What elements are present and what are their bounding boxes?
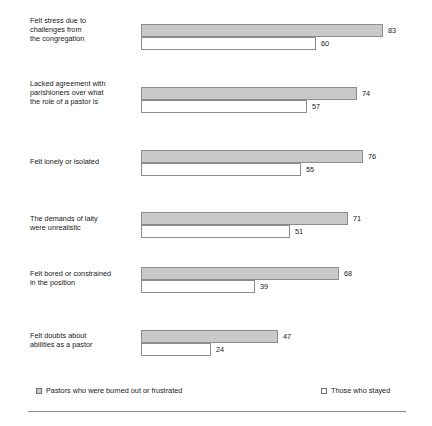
bar-stayed [141, 163, 301, 176]
legend-item-stayed[interactable]: Those who stayed [321, 386, 390, 395]
bar-stayed [141, 37, 316, 50]
legend-label-stayed: Those who stayed [331, 386, 390, 395]
bar-value-burned-out: 68 [344, 267, 352, 280]
category-label: Felt bored or constrained in the positio… [30, 269, 135, 287]
category-label: Lacked agreement with parishioners over … [30, 79, 135, 107]
bar-burned-out [141, 24, 383, 37]
bar-burned-out [141, 87, 357, 100]
bar-value-stayed: 55 [306, 163, 314, 176]
category-label: Felt lonely or isolated [30, 157, 135, 166]
bar-value-burned-out: 71 [353, 212, 361, 225]
bar-value-burned-out: 76 [368, 150, 376, 163]
bar-burned-out [141, 212, 348, 225]
bar-stayed [141, 225, 290, 238]
legend-swatch-hollow-icon [321, 388, 327, 394]
bar-value-stayed: 60 [321, 37, 329, 50]
category-label: Felt stress due to challenges from the c… [30, 16, 135, 44]
chart-legend: Pastors who were burned out or frustrate… [0, 386, 432, 402]
bar-value-stayed: 51 [295, 225, 303, 238]
bar-stayed [141, 343, 211, 356]
grouped-bar-chart: Felt stress due to challenges from the c… [0, 0, 432, 426]
bar-stayed [141, 100, 307, 113]
bar-burned-out [141, 330, 278, 343]
bar-value-burned-out: 47 [283, 330, 291, 343]
bar-value-burned-out: 74 [362, 87, 370, 100]
bar-value-stayed: 24 [216, 343, 224, 356]
bar-stayed [141, 280, 255, 293]
bar-burned-out [141, 150, 363, 163]
bar-burned-out [141, 267, 339, 280]
legend-label-burned-out: Pastors who were burned out or frustrate… [46, 386, 182, 395]
bar-value-stayed: 57 [312, 100, 320, 113]
legend-swatch-filled-icon [36, 388, 42, 394]
category-label: The demands of laity were unrealistic [30, 214, 135, 232]
bar-value-stayed: 39 [260, 280, 268, 293]
bar-value-burned-out: 83 [388, 24, 396, 37]
bottom-divider [28, 411, 406, 412]
legend-item-burned-out[interactable]: Pastors who were burned out or frustrate… [36, 386, 182, 395]
category-label: Felt doubts about abilities as a pastor [30, 331, 135, 349]
